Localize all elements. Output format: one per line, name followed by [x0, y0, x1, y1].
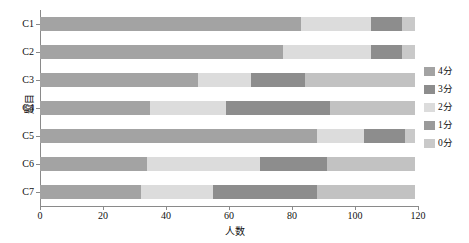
bar-segment[interactable]: [198, 73, 252, 87]
x-tick-label: 120: [411, 211, 426, 221]
y-tick-mark: [36, 52, 40, 53]
bar-segment[interactable]: [371, 17, 403, 31]
bar-segment[interactable]: [317, 129, 364, 143]
bar-segment[interactable]: [364, 129, 405, 143]
legend-swatch-icon: [424, 121, 435, 130]
y-tick-mark: [36, 108, 40, 109]
stacked-bar-c4[interactable]: [40, 101, 415, 115]
stacked-bar-chart: 题目 C1C2C3C4C5C6C7 020406080100120 人数 4分3…: [0, 0, 469, 243]
bar-segment[interactable]: [40, 129, 317, 143]
legend-item-1分[interactable]: 1分: [424, 120, 469, 131]
bar-segment[interactable]: [260, 157, 326, 171]
legend-label: 4分: [438, 67, 453, 77]
x-tick-label: 60: [224, 211, 234, 221]
bar-segment[interactable]: [226, 101, 330, 115]
bar-segment[interactable]: [40, 157, 147, 171]
bar-segment[interactable]: [40, 101, 150, 115]
bar-segment[interactable]: [301, 17, 370, 31]
y-tick-mark: [36, 24, 40, 25]
x-tick-label: 80: [287, 211, 297, 221]
bar-row: [40, 185, 418, 199]
plot-area: [40, 10, 418, 206]
y-tick-mark: [36, 136, 40, 137]
bar-segment[interactable]: [40, 45, 283, 59]
bar-segment[interactable]: [371, 45, 403, 59]
legend-swatch-icon: [424, 85, 435, 94]
legend-label: 2分: [438, 103, 453, 113]
y-tick-mark: [36, 164, 40, 165]
stacked-bar-c1[interactable]: [40, 17, 415, 31]
legend-label: 0分: [438, 139, 453, 149]
legend-item-3分[interactable]: 3分: [424, 84, 469, 95]
bar-row: [40, 129, 418, 143]
bar-row: [40, 157, 418, 171]
bar-row: [40, 101, 418, 115]
legend-label: 1分: [438, 121, 453, 131]
bar-segment[interactable]: [40, 73, 198, 87]
y-tick-label-c3: C3: [0, 75, 34, 85]
legend-swatch-icon: [424, 67, 435, 76]
bar-segment[interactable]: [213, 185, 317, 199]
bar-segment[interactable]: [150, 101, 226, 115]
bar-row: [40, 45, 418, 59]
x-axis-title: 人数: [0, 223, 469, 238]
bar-segment[interactable]: [327, 157, 415, 171]
legend-item-4分[interactable]: 4分: [424, 66, 469, 77]
bar-segment[interactable]: [317, 185, 415, 199]
y-tick-label-c7: C7: [0, 187, 34, 197]
stacked-bar-c5[interactable]: [40, 129, 415, 143]
y-tick-mark: [36, 80, 40, 81]
bar-row: [40, 17, 418, 31]
bar-segment[interactable]: [305, 73, 415, 87]
legend-item-2分[interactable]: 2分: [424, 102, 469, 113]
bar-segment[interactable]: [141, 185, 213, 199]
stacked-bar-c6[interactable]: [40, 157, 415, 171]
bar-segment[interactable]: [40, 17, 301, 31]
y-tick-label-c1: C1: [0, 19, 34, 29]
x-tick-label: 40: [161, 211, 171, 221]
y-tick-label-c5: C5: [0, 131, 34, 141]
y-tick-label-c4: C4: [0, 103, 34, 113]
bar-segment[interactable]: [402, 17, 415, 31]
stacked-bar-c7[interactable]: [40, 185, 415, 199]
bar-segment[interactable]: [40, 185, 141, 199]
x-tick-label: 20: [98, 211, 108, 221]
legend-label: 3分: [438, 85, 453, 95]
bar-segment[interactable]: [405, 129, 414, 143]
stacked-bar-c3[interactable]: [40, 73, 415, 87]
bar-segment[interactable]: [147, 157, 260, 171]
bar-row: [40, 73, 418, 87]
stacked-bar-c2[interactable]: [40, 45, 415, 59]
y-tick-label-c6: C6: [0, 159, 34, 169]
legend-swatch-icon: [424, 139, 435, 148]
bar-segment[interactable]: [283, 45, 371, 59]
legend-swatch-icon: [424, 103, 435, 112]
bar-segment[interactable]: [402, 45, 415, 59]
y-tick-label-c2: C2: [0, 47, 34, 57]
chart-legend: 4分3分2分1分0分: [424, 66, 469, 156]
bar-segment[interactable]: [251, 73, 305, 87]
y-tick-mark: [36, 192, 40, 193]
x-tick-label: 100: [348, 211, 363, 221]
x-tick-label: 0: [38, 211, 43, 221]
bar-segment[interactable]: [330, 101, 415, 115]
legend-item-0分[interactable]: 0分: [424, 138, 469, 149]
